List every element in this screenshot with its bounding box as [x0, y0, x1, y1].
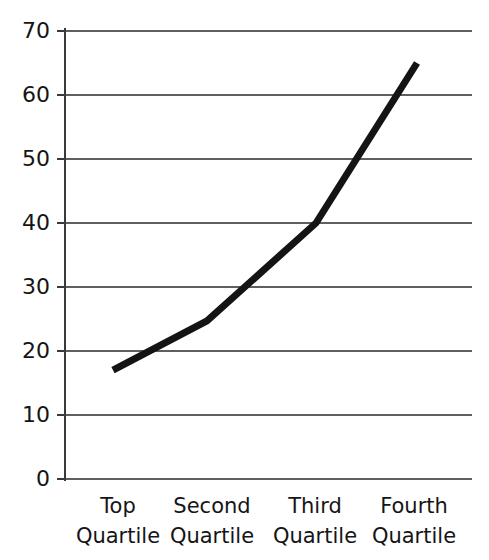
- y-label-10: 10: [22, 402, 50, 427]
- x-label-fourth-quartile-line1: Fourth: [380, 494, 448, 518]
- y-label-70: 70: [22, 18, 50, 43]
- chart-background: [0, 0, 489, 560]
- y-label-30: 30: [22, 274, 50, 299]
- y-label-20: 20: [22, 338, 50, 363]
- x-label-top-quartile-line1: Top: [99, 494, 135, 518]
- x-label-third-quartile-line2: Quartile: [273, 524, 357, 548]
- line-chart: 70 60 50 40 30 20 10 0 Top Quartile Seco…: [0, 0, 489, 560]
- x-label-fourth-quartile-line2: Quartile: [372, 524, 456, 548]
- y-label-0: 0: [36, 466, 50, 491]
- y-label-60: 60: [22, 82, 50, 107]
- chart-container: 70 60 50 40 30 20 10 0 Top Quartile Seco…: [0, 0, 489, 560]
- x-label-third-quartile-line1: Third: [287, 494, 342, 518]
- x-label-top-quartile-line2: Quartile: [76, 524, 160, 548]
- y-label-40: 40: [22, 210, 50, 235]
- x-label-second-quartile-line2: Quartile: [170, 524, 254, 548]
- y-label-50: 50: [22, 146, 50, 171]
- x-label-second-quartile-line1: Second: [173, 494, 250, 518]
